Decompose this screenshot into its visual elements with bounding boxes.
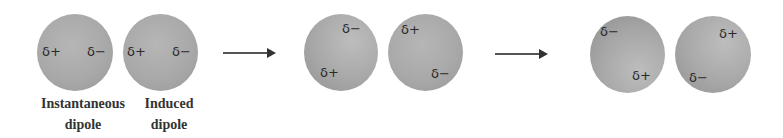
charge-negative: δ− (689, 71, 708, 84)
charge-negative: δ− (600, 25, 619, 38)
label-induced-dipole: Induced dipole (136, 93, 202, 135)
label-line: dipole (30, 114, 136, 135)
charge-positive: δ+ (127, 45, 146, 58)
charge-negative: δ− (87, 45, 106, 58)
dipole-diagram: δ+ δ− δ+ δ− Instantaneous dipole Induced… (0, 0, 783, 138)
right-arrow-icon (223, 48, 276, 58)
label-instantaneous-dipole: Instantaneous dipole (30, 93, 136, 135)
label-line: Induced (136, 93, 202, 114)
charge-negative: δ− (431, 67, 450, 80)
charge-positive: δ+ (632, 69, 651, 82)
atom (675, 16, 751, 93)
label-line: Instantaneous (30, 93, 136, 114)
charge-positive: δ+ (719, 27, 738, 40)
atom (304, 14, 378, 91)
atom (388, 14, 463, 91)
charge-positive: δ+ (401, 23, 420, 36)
charge-positive: δ+ (42, 45, 61, 58)
charge-positive: δ+ (320, 66, 339, 79)
label-line: dipole (136, 114, 202, 135)
charge-negative: δ− (342, 22, 361, 35)
charge-negative: δ− (172, 45, 191, 58)
right-arrow-icon (495, 49, 548, 59)
